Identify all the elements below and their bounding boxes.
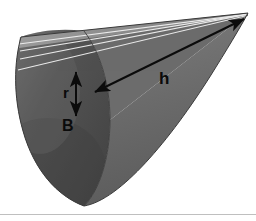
cone-illustration bbox=[0, 0, 256, 221]
figure-baseline-rule bbox=[0, 214, 256, 215]
radius-label: r bbox=[63, 85, 69, 100]
cone-diagram-figure: h r B bbox=[0, 0, 256, 221]
height-label: h bbox=[159, 70, 169, 87]
base-label: B bbox=[62, 118, 74, 134]
cone-solid bbox=[0, 13, 249, 221]
